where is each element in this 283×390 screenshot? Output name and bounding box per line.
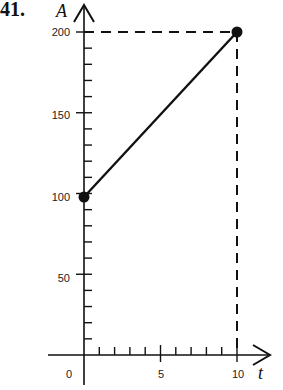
y-axis-name: A [55, 1, 68, 21]
point-end [232, 27, 243, 38]
y-label-50: 50 [58, 272, 70, 284]
x-label-0: 0 [66, 368, 72, 380]
data-line [84, 32, 237, 197]
x-label-5: 5 [158, 368, 164, 380]
y-label-200: 200 [52, 26, 70, 38]
y-label-150: 150 [52, 109, 70, 121]
y-label-100: 100 [52, 191, 70, 203]
x-label-10: 10 [232, 368, 244, 380]
x-ticks [99, 345, 237, 362]
point-start [79, 192, 90, 203]
x-axis-name: t [258, 363, 264, 383]
dashed-guides [84, 32, 237, 355]
line-chart: 200 150 100 50 0 5 10 A t [0, 0, 283, 390]
